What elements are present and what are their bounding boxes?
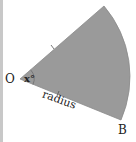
sector-svg: O x° radius B	[0, 0, 136, 142]
sector-diagram: O x° radius B	[0, 0, 136, 142]
angle-label: x°	[24, 73, 35, 84]
endpoint-label-b: B	[118, 123, 127, 137]
center-label-o: O	[5, 72, 15, 86]
upper-radius-tick	[51, 45, 54, 49]
